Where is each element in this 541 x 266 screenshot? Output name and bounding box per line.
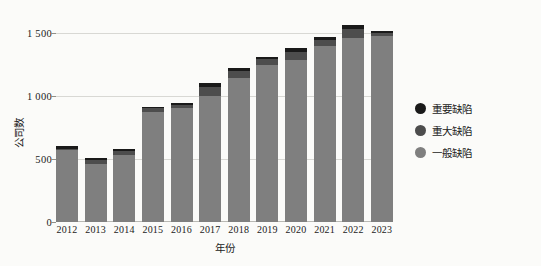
legend-item: 重要缺陷 (415, 101, 472, 116)
bar-2023 (371, 20, 393, 222)
bar-2013 (85, 20, 107, 222)
y-axis-tick-label: 1 500 (27, 27, 52, 38)
legend-item: 一般缺陷 (415, 145, 472, 160)
bar-segment (228, 71, 250, 78)
bar-2016 (171, 20, 193, 222)
bar-2021 (314, 20, 336, 222)
bar-2012 (56, 20, 78, 222)
bar-segment (342, 29, 364, 38)
legend-swatch-icon (415, 125, 426, 136)
x-axis-tick-label: 2017 (199, 224, 221, 240)
x-axis-title: 年份 (56, 240, 393, 255)
legend-item: 重大缺陷 (415, 123, 472, 138)
bar-2014 (113, 20, 135, 222)
bar-segment (171, 108, 193, 222)
bar-segment (342, 38, 364, 222)
bar-segment (285, 52, 307, 61)
bar-segment (85, 164, 107, 222)
bar-segment (314, 46, 336, 222)
bar-2015 (142, 20, 164, 222)
x-axis-tick-labels: 2012201320142015201620172018201920202021… (56, 224, 393, 240)
bar-segment (142, 112, 164, 222)
bar-segment (285, 60, 307, 222)
legend-label: 重要缺陷 (432, 101, 472, 116)
y-axis-tick-labels: 05001 0001 500 (0, 20, 52, 222)
plot-area (56, 20, 393, 222)
bar-segment (371, 36, 393, 222)
bar-segment (56, 150, 78, 222)
x-axis-tick-label: 2021 (314, 224, 336, 240)
x-axis-tick-label: 2023 (371, 224, 393, 240)
bar-2022 (342, 20, 364, 222)
y-axis-tick (51, 222, 56, 223)
x-axis-tick-label: 2019 (256, 224, 278, 240)
legend-swatch-icon (415, 147, 426, 158)
y-axis-tick-label: 1 000 (27, 90, 52, 101)
x-axis-tick-label: 2020 (285, 224, 307, 240)
y-axis-tick-label: 500 (35, 153, 52, 164)
bar-2017 (199, 20, 221, 222)
bar-2018 (228, 20, 250, 222)
bar-2019 (256, 20, 278, 222)
legend-label: 重大缺陷 (432, 123, 472, 138)
bar-segment (256, 65, 278, 222)
x-axis-tick-label: 2018 (228, 224, 250, 240)
bar-segment (199, 96, 221, 222)
x-axis-tick-label: 2013 (85, 224, 107, 240)
chart-container: 公司数 05001 0001 500 201220132014201520162… (0, 0, 541, 266)
bar-segment (199, 87, 221, 96)
x-axis-tick-label: 2012 (56, 224, 78, 240)
chart-legend: 重要缺陷重大缺陷一般缺陷 (415, 101, 472, 160)
x-axis-tick-label: 2014 (113, 224, 135, 240)
x-axis-tick-label: 2015 (142, 224, 164, 240)
bar-group (56, 20, 393, 222)
legend-swatch-icon (415, 103, 426, 114)
bar-segment (113, 155, 135, 222)
bar-segment (228, 78, 250, 222)
x-axis-tick-label: 2016 (171, 224, 193, 240)
bar-2020 (285, 20, 307, 222)
legend-label: 一般缺陷 (432, 145, 472, 160)
x-axis-tick-label: 2022 (342, 224, 364, 240)
